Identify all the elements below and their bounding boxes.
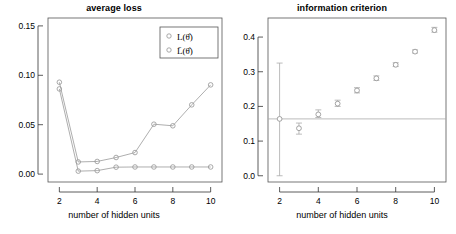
right-xtick-label: 10 (430, 196, 440, 206)
legend-entry-label: L(θ̂) (177, 32, 193, 42)
left-xaxis-label: number of hidden units (0, 210, 228, 220)
left-ytick-label: 0.05 (18, 120, 35, 130)
right-data-point (316, 112, 321, 117)
right-xtick-label: 6 (355, 196, 360, 206)
right-xaxis-label: number of hidden units (228, 210, 456, 220)
left-ytick-label: 0.00 (18, 169, 35, 179)
panel-information-criterion: information criterion 0.00.10.20.30.4246… (228, 0, 456, 234)
left-legend: L(θ̂)L̄(θ̂) (160, 27, 218, 58)
right-ytick-label: 0.1 (243, 136, 255, 146)
right-data-point (355, 88, 360, 93)
legend-entry-label: L̄(θ̂) (177, 46, 193, 56)
left-xtick-label: 6 (133, 196, 138, 206)
right-plot-box (268, 18, 446, 182)
right-plot-canvas: 0.00.10.20.30.4246810 (228, 0, 456, 234)
right-ytick-label: 0.2 (243, 101, 255, 111)
right-data-point (432, 28, 437, 33)
right-ytick-label: 0.3 (243, 67, 255, 77)
left-xtick-label: 2 (57, 196, 62, 206)
right-xtick-label: 4 (316, 196, 321, 206)
right-ytick-label: 0.4 (243, 32, 255, 42)
right-xtick-label: 8 (393, 196, 398, 206)
left-ytick-label: 0.15 (18, 21, 35, 31)
right-xtick-label: 2 (277, 196, 282, 206)
left-plot-canvas: 0.000.050.100.15246810L(θ̂)L̄(θ̂) (0, 0, 228, 234)
left-data-point (208, 83, 213, 88)
left-xtick-label: 4 (95, 196, 100, 206)
right-data-point (413, 49, 418, 54)
left-ytick-label: 0.10 (18, 70, 35, 80)
left-xtick-label: 8 (170, 196, 175, 206)
right-data-point (297, 126, 302, 131)
left-series-line-1 (59, 89, 210, 171)
right-data-point (335, 101, 340, 106)
right-data-point (393, 62, 398, 67)
left-xtick-label: 10 (206, 196, 216, 206)
right-data-point (277, 116, 282, 121)
figure-panel-pair: average loss 0.000.050.100.15246810L(θ̂)… (0, 0, 456, 234)
right-ytick-label: 0.0 (243, 171, 255, 181)
right-data-point (374, 76, 379, 81)
panel-average-loss: average loss 0.000.050.100.15246810L(θ̂)… (0, 0, 228, 234)
